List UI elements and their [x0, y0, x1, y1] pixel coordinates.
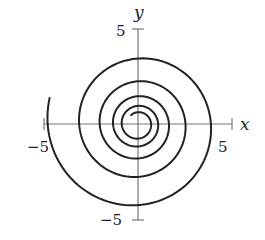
y-tick-label-pos5: 5: [116, 22, 126, 40]
x-tick-label-neg5: −5: [27, 138, 49, 156]
x-axis-label: x: [240, 114, 250, 134]
x-tick-label-pos5: 5: [218, 138, 228, 156]
y-axis-label: y: [133, 2, 144, 22]
spiral-curve: [47, 58, 211, 205]
spiral-plot: y x 5 −5 −5 5: [0, 0, 265, 240]
y-tick-label-neg5: −5: [100, 211, 122, 229]
